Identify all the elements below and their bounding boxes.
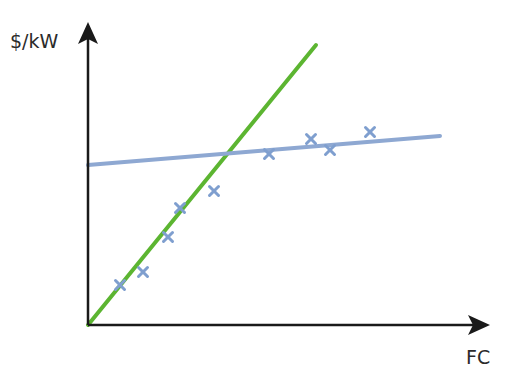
chart [0, 0, 508, 380]
lines-layer [88, 45, 440, 325]
x-marker [366, 128, 375, 137]
x-marker [164, 233, 173, 242]
x-axis-label: FC [466, 346, 490, 368]
x-marker [139, 268, 148, 277]
x-marker [210, 187, 219, 196]
x-marker [307, 135, 316, 144]
y-axis-label: $/kW [10, 30, 58, 52]
axes-layer [78, 22, 490, 335]
